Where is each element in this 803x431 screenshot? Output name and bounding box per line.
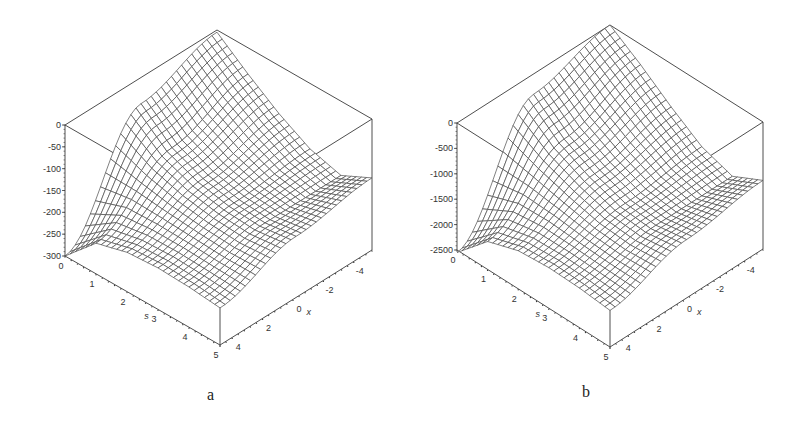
s-tick-label: 5: [213, 350, 218, 360]
z-tick-label: -50: [48, 142, 61, 152]
z-tick-label: -1000: [430, 169, 453, 179]
s-tick-label: 5: [603, 352, 608, 362]
x-axis-label: x: [306, 307, 312, 317]
x-tick-label: 4: [236, 342, 241, 352]
x-tick-label: 2: [656, 324, 661, 334]
surface-plot-b: 0-500-1000-1500-2000-2500012345s420-2-4x…: [400, 0, 803, 431]
s-tick-label: 0: [450, 255, 455, 265]
s-tick-label: 2: [120, 297, 125, 307]
s-tick-label: 1: [89, 279, 94, 289]
z-tick-label: 0: [56, 120, 61, 130]
z-axis: 0-500-1000-1500-2000-2500: [430, 118, 457, 255]
surface-mesh: [65, 32, 372, 308]
s-tick-label: 4: [182, 332, 187, 342]
x-tick-label: -2: [716, 284, 724, 294]
z-tick-label: -150: [43, 186, 61, 196]
x-tick-label: 2: [266, 323, 271, 333]
z-tick-label: -2000: [430, 220, 453, 230]
s-axis-label: s: [144, 311, 149, 321]
surface-plot-a: 0-50-100-150-200-250-300012345s420-2-4x …: [0, 0, 400, 431]
x-tick-label: 4: [626, 343, 631, 353]
s-tick-label: 3: [542, 313, 547, 323]
x-tick-label: -4: [356, 266, 364, 276]
z-tick-label: -250: [43, 229, 61, 239]
z-tick-label: -1500: [430, 194, 453, 204]
z-tick-label: -300: [43, 251, 61, 261]
z-tick-label: -200: [43, 207, 61, 217]
surface-mesh: [457, 25, 763, 310]
caption-b: b: [582, 383, 590, 401]
caption-a: a: [207, 386, 214, 404]
surface-chart-b: 0-500-1000-1500-2000-2500012345s420-2-4x: [400, 0, 803, 431]
s-tick-label: 2: [512, 294, 517, 304]
x-tick-label: 0: [296, 304, 301, 314]
z-tick-label: 0: [448, 118, 453, 128]
x-tick-label: -2: [325, 285, 333, 295]
x-tick-label: -4: [747, 265, 755, 275]
s-tick-label: 3: [151, 314, 156, 324]
s-axis-label: s: [535, 309, 540, 319]
z-tick-label: -2500: [430, 245, 453, 255]
x-tick-label: 0: [687, 304, 692, 314]
surface-chart-a: 0-50-100-150-200-250-300012345s420-2-4x: [0, 0, 400, 431]
z-axis: 0-50-100-150-200-250-300: [43, 120, 65, 261]
x-axis-label: x: [696, 307, 702, 317]
z-tick-label: -100: [43, 164, 61, 174]
s-tick-label: 0: [58, 261, 63, 271]
z-tick-label: -500: [435, 143, 453, 153]
s-tick-label: 4: [573, 333, 578, 343]
s-tick-label: 1: [481, 274, 486, 284]
